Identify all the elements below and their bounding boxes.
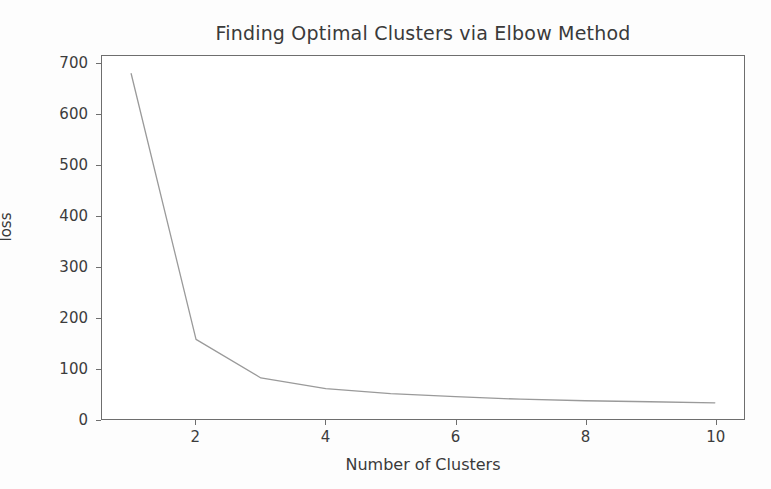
y-tick-mark — [96, 420, 101, 421]
x-tick-mark — [195, 420, 196, 425]
x-tick-mark — [586, 420, 587, 425]
y-tick-label: 200 — [59, 309, 88, 327]
x-tick-label: 4 — [321, 428, 331, 446]
y-tick-label: 100 — [59, 360, 88, 378]
y-tick-label: 700 — [59, 54, 88, 72]
plot-svg — [102, 56, 744, 419]
x-tick-mark — [716, 420, 717, 425]
loss-line-series — [131, 74, 715, 403]
x-tick-label: 10 — [706, 428, 725, 446]
x-tick-mark — [325, 420, 326, 425]
chart-title: Finding Optimal Clusters via Elbow Metho… — [101, 22, 745, 44]
y-tick-label: 600 — [59, 105, 88, 123]
x-tick-mark — [456, 420, 457, 425]
x-tick-label: 6 — [451, 428, 461, 446]
y-tick-label: 300 — [59, 258, 88, 276]
x-tick-label: 8 — [581, 428, 591, 446]
plot-area — [101, 55, 745, 420]
x-axis-label: Number of Clusters — [101, 455, 745, 474]
x-tick-label: 2 — [191, 428, 201, 446]
y-tick-label: 0 — [78, 411, 88, 429]
y-axis-label: loss — [0, 213, 15, 242]
y-tick-label: 400 — [59, 207, 88, 225]
chart-figure: Finding Optimal Clusters via Elbow Metho… — [0, 0, 771, 489]
y-tick-label: 500 — [59, 156, 88, 174]
